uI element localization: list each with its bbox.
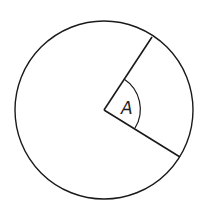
circle-sector-diagram: A: [0, 0, 200, 211]
angle-label: A: [120, 98, 133, 118]
radius-lower: [104, 110, 180, 157]
